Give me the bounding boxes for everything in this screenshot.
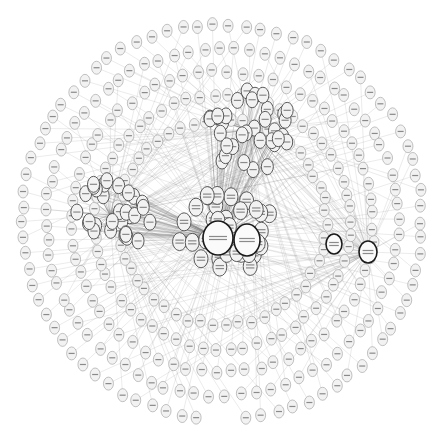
- outer-node: [153, 55, 163, 68]
- node-label-illegible: [122, 258, 128, 259]
- outer-node: [281, 81, 291, 94]
- outer-node: [367, 347, 377, 360]
- outer-node: [388, 169, 398, 182]
- outer-node: [96, 342, 106, 355]
- outer-node: [180, 363, 190, 376]
- outer-node: [383, 152, 393, 165]
- outer-node: [275, 51, 285, 64]
- outer-node: [25, 262, 35, 275]
- node-label-illegible: [346, 341, 352, 342]
- node-label-illegible: [268, 338, 274, 339]
- outer-node: [410, 169, 420, 182]
- node-label-illegible: [95, 134, 101, 135]
- node-label-illegible: [413, 270, 419, 271]
- outer-node: [344, 63, 354, 76]
- node-label-illegible: [334, 385, 340, 386]
- outer-node: [315, 254, 325, 267]
- outer-node: [183, 46, 193, 59]
- cluster-node: [212, 108, 224, 124]
- node-label-illegible: [185, 320, 191, 321]
- hub-node: [359, 241, 377, 263]
- outer-node: [104, 318, 114, 331]
- node-label-illegible: [396, 234, 402, 235]
- outer-node: [287, 400, 297, 413]
- node-label-illegible: [146, 222, 153, 223]
- node-label-illegible: [341, 131, 347, 132]
- node-label-illegible: [80, 364, 86, 365]
- node-label-illegible: [27, 268, 33, 269]
- node-label-illegible: [175, 240, 183, 241]
- node-label-illegible: [347, 205, 353, 206]
- outer-node: [200, 43, 210, 56]
- outer-node: [233, 315, 243, 328]
- node-label-illegible: [126, 70, 132, 71]
- node-label-illegible: [396, 219, 402, 220]
- outer-node: [340, 254, 350, 267]
- node-label-illegible: [347, 222, 353, 223]
- outer-node: [134, 152, 144, 165]
- outer-node: [148, 399, 158, 412]
- outer-node: [147, 30, 157, 43]
- node-label-illegible: [243, 417, 249, 418]
- node-label-illegible: [49, 270, 55, 271]
- node-label-illegible: [254, 392, 260, 393]
- outer-node: [127, 97, 137, 110]
- node-label-illegible: [122, 364, 128, 365]
- node-label-illegible: [335, 275, 341, 276]
- node-label-illegible: [283, 384, 289, 385]
- outer-node: [207, 18, 217, 31]
- node-label-illegible: [308, 340, 314, 341]
- outer-node: [133, 274, 143, 287]
- outer-node: [157, 104, 167, 117]
- node-label-illegible: [329, 242, 339, 243]
- node-label-illegible: [92, 374, 98, 375]
- outer-node: [266, 332, 276, 345]
- node-label-illegible: [43, 314, 49, 315]
- node-label-illegible: [394, 203, 400, 204]
- outer-node: [192, 21, 202, 34]
- node-label-illegible: [293, 327, 299, 328]
- outer-node: [124, 64, 134, 77]
- node-label-illegible: [43, 209, 49, 210]
- outer-node: [415, 199, 425, 212]
- node-label-illegible: [21, 207, 27, 208]
- node-label-illegible: [273, 33, 279, 34]
- node-label-illegible: [84, 334, 90, 335]
- outer-node: [415, 217, 425, 230]
- node-label-illegible: [300, 126, 306, 127]
- node-label-illegible: [143, 352, 149, 353]
- node-label-illegible: [214, 115, 221, 116]
- node-label-illegible: [133, 400, 139, 401]
- outer-node: [247, 316, 257, 329]
- outer-node: [16, 215, 26, 228]
- node-label-illegible: [152, 84, 158, 85]
- outer-node: [254, 69, 264, 82]
- node-label-illegible: [71, 92, 77, 93]
- node-label-illegible: [109, 357, 115, 358]
- outer-node: [284, 353, 294, 366]
- node-label-illegible: [418, 236, 424, 237]
- node-label-illegible: [70, 245, 76, 246]
- outer-node: [308, 94, 318, 107]
- outer-node: [159, 327, 169, 340]
- node-label-illegible: [185, 52, 191, 53]
- node-label-illegible: [310, 100, 316, 101]
- node-label-illegible: [313, 308, 319, 309]
- node-label-illegible: [342, 260, 348, 261]
- node-label-illegible: [175, 243, 183, 244]
- node-label-illegible: [390, 175, 396, 176]
- node-label-illegible: [292, 64, 298, 65]
- node-label-illegible: [138, 319, 144, 320]
- node-label-illegible: [83, 157, 89, 158]
- outer-node: [394, 213, 404, 226]
- cluster-node: [177, 213, 191, 231]
- node-label-illegible: [97, 311, 103, 312]
- cluster-node: [257, 87, 269, 103]
- outer-node: [159, 300, 169, 313]
- outer-node: [107, 351, 117, 364]
- node-label-illegible: [28, 157, 34, 158]
- outer-node: [211, 344, 221, 357]
- node-label-illegible: [247, 49, 253, 50]
- nodes-layer: [16, 18, 426, 425]
- node-label-illegible: [386, 278, 392, 279]
